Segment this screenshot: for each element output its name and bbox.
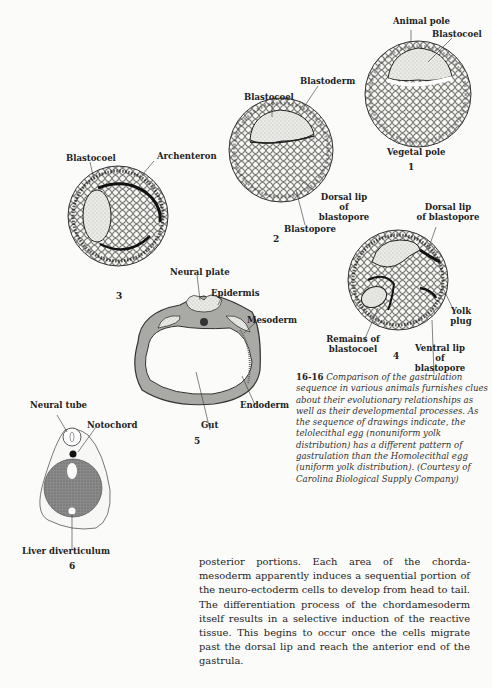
label-remains-line1: Remains of bbox=[322, 334, 384, 344]
panel-number-6: 6 bbox=[69, 561, 75, 571]
label-mesoderm: Mesoderm bbox=[247, 315, 297, 325]
label-liver-diverticulum: Liver diverticulum bbox=[22, 546, 110, 556]
label-blastopore: Blastopore bbox=[284, 224, 336, 234]
label-vegetal-pole: Vegetal pole bbox=[387, 147, 445, 157]
label-dorsal-lip-4-line2: of blastopore bbox=[408, 212, 488, 222]
label-blastocoel-1: Blastocoel bbox=[432, 29, 482, 39]
figure-caption-text: Comparison of the gastrulation sequence … bbox=[296, 372, 488, 484]
label-endoderm: Endoderm bbox=[240, 400, 289, 410]
panel-number-5: 5 bbox=[194, 436, 200, 446]
label-yolk-plug: Yolk plug bbox=[446, 306, 476, 326]
label-yolk-plug-line2: plug bbox=[446, 316, 476, 326]
label-notochord: Notochord bbox=[87, 420, 137, 430]
label-neural-tube: Neural tube bbox=[30, 400, 87, 410]
label-blastocoel-2: Blastocoel bbox=[244, 92, 294, 102]
panel-6-embryo-section bbox=[40, 415, 110, 549]
label-remains-line2: blastocoel bbox=[322, 344, 384, 354]
panel-number-2: 2 bbox=[273, 234, 279, 244]
label-neural-plate: Neural plate bbox=[170, 267, 230, 277]
label-dorsal-lip-2-line2: of bbox=[316, 202, 372, 212]
panel-1-blastula bbox=[365, 30, 471, 147]
label-archenteron: Archenteron bbox=[157, 151, 217, 161]
panel-number-4: 4 bbox=[393, 351, 399, 361]
panel-3-mid-gastrula bbox=[68, 161, 168, 266]
panel-number-3: 3 bbox=[116, 291, 122, 301]
label-dorsal-lip-2: Dorsal lip of blastopore bbox=[316, 192, 372, 222]
label-dorsal-lip-4-line1: Dorsal lip bbox=[408, 202, 488, 212]
label-remains-blastocoel: Remains of blastocoel bbox=[322, 334, 384, 354]
figure-number: 16-16 bbox=[296, 372, 324, 382]
label-animal-pole: Animal pole bbox=[393, 16, 450, 26]
label-dorsal-lip-2-line3: blastopore bbox=[316, 212, 372, 222]
label-blastocoel-3: Blastocoel bbox=[66, 153, 116, 163]
label-ventral-lip-line1: Ventral lip bbox=[410, 343, 470, 353]
label-dorsal-lip-2-line1: Dorsal lip bbox=[316, 192, 372, 202]
panel-number-1: 1 bbox=[408, 162, 414, 172]
label-dorsal-lip-4: Dorsal lip of blastopore bbox=[408, 202, 488, 222]
body-paragraph: posterior portions. Each area of the cho… bbox=[199, 555, 470, 669]
label-ventral-lip-line2: of bbox=[410, 353, 470, 363]
label-yolk-plug-line1: Yolk bbox=[446, 306, 476, 316]
figure-caption: 16-16 Comparison of the gastrulation seq… bbox=[296, 372, 492, 485]
label-ventral-lip: Ventral lip of blastopore bbox=[410, 343, 470, 373]
label-blastoderm: Blastoderm bbox=[300, 76, 355, 86]
label-epidermis: Epidermis bbox=[211, 288, 260, 298]
label-gut: Gut bbox=[201, 420, 218, 430]
